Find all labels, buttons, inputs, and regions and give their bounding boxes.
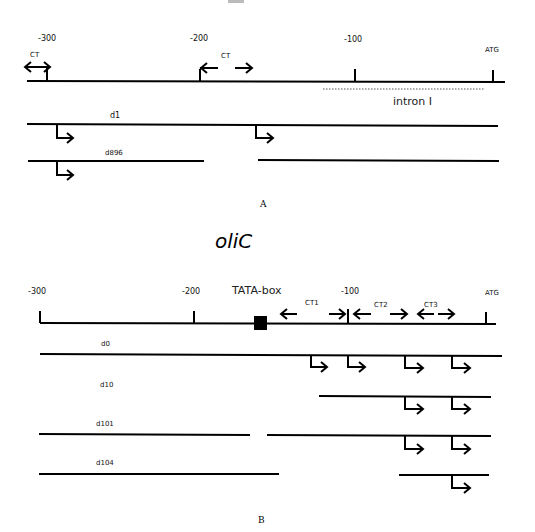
tss-arrow-icon (405, 356, 423, 373)
ct-arrow-left-icon (200, 63, 218, 73)
construct-d0-line (40, 354, 502, 356)
construct-label-d10: d10 (100, 381, 113, 389)
tss-arrow-icon (405, 397, 423, 414)
construct-d101-line-left (39, 434, 250, 435)
ct2-label: CT2 (374, 301, 388, 309)
tata-box-label: TATA-box (231, 284, 282, 297)
ct3-arrow-left-icon (418, 309, 434, 319)
tss-arrow-icon (57, 125, 73, 143)
tick-label-minus300: -300 (38, 34, 56, 43)
tick-label-minus100: -100 (344, 35, 362, 44)
tick-label-minus300: -300 (28, 287, 46, 296)
tss-arrow-icon (256, 126, 273, 143)
tss-arrow-icon (57, 162, 73, 180)
tss-arrow-icon (348, 355, 365, 372)
construct-d1-line (27, 124, 252, 125)
axis-line (40, 323, 496, 324)
panel-a: -300 -200 -100 ATG CT CT intron I (25, 34, 505, 209)
ct-label-2: CT (221, 52, 231, 60)
construct-label-d896: d896 (105, 149, 123, 157)
tick-label-minus200: -200 (182, 287, 200, 296)
panel-label-b: B (258, 515, 265, 525)
ct-arrow-right-icon (235, 63, 252, 73)
tss-arrow-icon (405, 436, 423, 454)
ct2-arrow-left-icon (354, 309, 371, 319)
construct-label-d0: d0 (101, 340, 110, 348)
panel-label-a: A (259, 199, 267, 209)
ct3-arrow-right-icon (438, 309, 454, 319)
tss-arrow-icon (311, 355, 327, 372)
tata-box-marker (254, 316, 267, 330)
construct-d10-line (319, 396, 491, 397)
construct-label-d101: d101 (96, 420, 114, 428)
tick-label-minus100: -100 (341, 287, 359, 296)
tss-arrow-icon (452, 436, 470, 454)
panel-b: oliC -300 -200 TATA-box -100 ATG CT1 CT2… (28, 229, 502, 525)
construct-label-d1: d1 (110, 111, 120, 120)
ct3-label: CT3 (424, 301, 438, 309)
tss-arrow-icon (452, 356, 470, 373)
intron-label: intron I (393, 95, 432, 108)
ct-bidirectional-arrow-icon (25, 62, 50, 72)
tss-arrow-icon (452, 397, 470, 414)
tick-label-atg: ATG (485, 289, 499, 297)
ct1-arrow-right-icon (329, 309, 345, 319)
tss-arrow-icon (452, 476, 470, 493)
ct1-arrow-left-icon (281, 309, 297, 319)
gene-title: oliC (215, 229, 252, 253)
promoter-diagram: -300 -200 -100 ATG CT CT intron I (0, 0, 535, 532)
cropped-title-fragment (228, 0, 244, 3)
tick-label-minus200: -200 (190, 34, 208, 43)
construct-d896-line-right (258, 160, 499, 161)
construct-label-d104: d104 (96, 459, 114, 467)
ct-label-1: CT (30, 51, 40, 59)
tick-label-atg: ATG (485, 46, 499, 54)
ct2-arrow-right-icon (390, 309, 407, 319)
axis-line (27, 81, 505, 82)
ct1-label: CT1 (305, 299, 319, 307)
construct-d101-line-right (267, 435, 491, 436)
